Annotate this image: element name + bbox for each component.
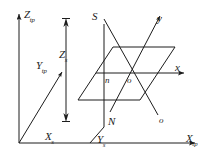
point-label-o-lower: o	[159, 116, 164, 125]
axis-y-tp	[19, 72, 62, 143]
axis-label-x-tp: Xtp	[186, 133, 198, 147]
dimension-label-z-s: Zs	[59, 49, 68, 63]
axis-label-y-tp: Ytp	[36, 60, 47, 74]
dimension-label-x-s: Xs	[45, 131, 54, 145]
coordinate-system-diagram: Ztp Xtp Ytp Zs Xs Ys S N n o o y x	[0, 0, 213, 165]
point-label-s: S	[92, 11, 98, 22]
point-label-n-upper: N	[108, 116, 115, 127]
dimension-label-y-s: Ys	[97, 134, 106, 148]
axis-label-z-tp: Ztp	[24, 9, 35, 23]
point-label-o-origin: o	[127, 76, 132, 85]
dimension-arrow-z-s	[62, 18, 70, 122]
point-label-n-lower: n	[105, 76, 110, 85]
axis-label-y-local: y	[157, 13, 162, 24]
axis-y-local	[110, 16, 160, 112]
axis-label-x-local: x	[175, 62, 180, 73]
sight-line-s-o	[104, 19, 158, 115]
